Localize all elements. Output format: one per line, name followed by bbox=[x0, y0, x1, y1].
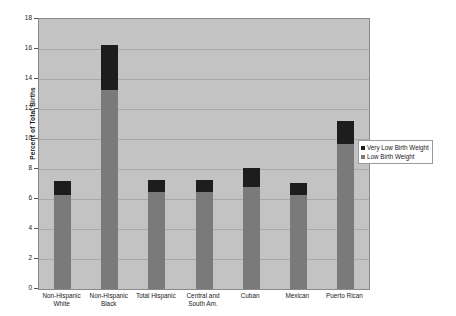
x-tick-label: Mexican bbox=[274, 292, 321, 300]
y-tick-label: 4 bbox=[28, 225, 32, 232]
bar-group bbox=[337, 121, 354, 289]
x-tick-label: Central and South Am. bbox=[179, 292, 226, 308]
y-tick-label: 6 bbox=[28, 195, 32, 202]
x-axis-tick-labels: Non-Hispanic WhiteNon-Hispanic BlackTota… bbox=[38, 292, 368, 316]
bar-group bbox=[54, 181, 71, 289]
x-tick-label: Non-Hispanic White bbox=[38, 292, 85, 308]
y-tick-label: 8 bbox=[28, 165, 32, 172]
bar-segment-very-low-birth-weight bbox=[54, 181, 71, 195]
bar-group bbox=[148, 180, 165, 290]
y-tick-label: 0 bbox=[28, 285, 32, 292]
bar-segment-low-birth-weight bbox=[243, 187, 260, 289]
bar-group bbox=[243, 168, 260, 290]
gridline bbox=[39, 139, 369, 140]
x-tick-label: Cuban bbox=[227, 292, 274, 300]
x-tick-label: Total Hispanic bbox=[132, 292, 179, 300]
y-tick-label: 14 bbox=[25, 75, 32, 82]
bar-segment-low-birth-weight bbox=[148, 192, 165, 290]
bar-segment-very-low-birth-weight bbox=[148, 180, 165, 192]
plot-area bbox=[38, 18, 370, 290]
bar-segment-low-birth-weight bbox=[337, 144, 354, 290]
y-tick-label: 16 bbox=[25, 45, 32, 52]
bar-group bbox=[290, 183, 307, 290]
bar-segment-very-low-birth-weight bbox=[101, 45, 118, 90]
legend-item: Low Birth Weight bbox=[361, 152, 429, 161]
legend-swatch-icon bbox=[361, 155, 365, 159]
bar-segment-very-low-birth-weight bbox=[337, 121, 354, 144]
y-tick-label: 12 bbox=[25, 105, 32, 112]
bar-segment-very-low-birth-weight bbox=[290, 183, 307, 195]
bar-segment-very-low-birth-weight bbox=[196, 180, 213, 192]
gridline bbox=[39, 79, 369, 80]
x-tick-label: Puerto Rican bbox=[321, 292, 368, 300]
legend-item-label: Low Birth Weight bbox=[367, 152, 414, 161]
bar-segment-low-birth-weight bbox=[290, 195, 307, 290]
legend-item: Very Low Birth Weight bbox=[361, 143, 429, 152]
bar-group bbox=[196, 180, 213, 290]
x-tick-label: Non-Hispanic Black bbox=[85, 292, 132, 308]
bar-segment-very-low-birth-weight bbox=[243, 168, 260, 188]
y-tick-label: 18 bbox=[25, 15, 32, 22]
bar-chart: Percent of Total Births 024681012141618 … bbox=[0, 0, 456, 316]
legend-item-label: Very Low Birth Weight bbox=[367, 143, 429, 152]
y-tick-label: 2 bbox=[28, 255, 32, 262]
bar-segment-low-birth-weight bbox=[196, 192, 213, 290]
y-tick-label: 10 bbox=[25, 135, 32, 142]
bar-segment-low-birth-weight bbox=[54, 195, 71, 290]
gridline bbox=[39, 49, 369, 50]
y-axis-tick-labels: 024681012141618 bbox=[0, 0, 38, 316]
legend-swatch-icon bbox=[361, 146, 365, 150]
bar-group bbox=[101, 45, 118, 290]
gridline bbox=[39, 169, 369, 170]
legend: Very Low Birth WeightLow Birth Weight bbox=[358, 140, 433, 164]
gridline bbox=[39, 109, 369, 110]
bar-segment-low-birth-weight bbox=[101, 90, 118, 290]
